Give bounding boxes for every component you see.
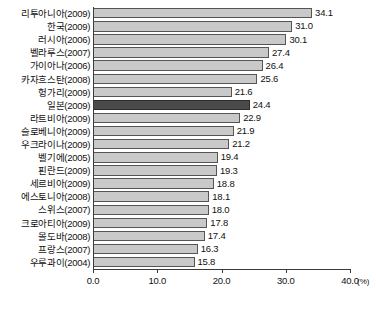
axis-tick-label: 10.0 <box>148 275 166 287</box>
bar <box>93 34 286 44</box>
category-label: 슬로베니아(2009) <box>0 126 90 137</box>
bar-value-label: 21.9 <box>237 125 255 137</box>
bar <box>93 257 195 267</box>
axis-tick-label: 30.0 <box>277 275 295 287</box>
category-label: 카자흐스탄(2008) <box>0 74 90 85</box>
bar <box>93 126 234 136</box>
bar-value-label: 22.9 <box>243 112 261 124</box>
bar-value-label: 34.1 <box>315 7 333 19</box>
bar-value-label: 26.4 <box>266 60 284 72</box>
bar-row: 벨라루스(2007)27.4 <box>0 46 376 59</box>
bar-row: 스위스(2007)18.0 <box>0 203 376 216</box>
category-label: 우크라이나(2009) <box>0 139 90 150</box>
bar-track: 18.0 <box>93 203 376 216</box>
bar-value-label: 15.8 <box>198 256 216 268</box>
plot-area: 리투아니아(2009)34.1한국(2009)31.0러시아(2006)30.1… <box>0 0 376 312</box>
bar-value-label: 21.2 <box>232 138 250 150</box>
bar-track: 27.4 <box>93 46 376 59</box>
category-label: 몰도바(2008) <box>0 231 90 242</box>
bar-track: 19.4 <box>93 151 376 164</box>
axis-tick-label: 20.0 <box>213 275 231 287</box>
bar-value-label: 17.8 <box>210 217 228 229</box>
category-label: 크로아티아(2009) <box>0 218 90 229</box>
category-label: 한국(2009) <box>0 21 90 32</box>
bar-track: 18.1 <box>93 190 376 203</box>
bar <box>93 60 263 70</box>
bar-row: 핀란드(2009)19.3 <box>0 164 376 177</box>
bar-track: 24.4 <box>93 99 376 112</box>
bar <box>93 165 217 175</box>
bar-value-label: 18.8 <box>217 178 235 190</box>
bar-track: 16.3 <box>93 243 376 256</box>
bar-track: 21.9 <box>93 125 376 138</box>
bar-value-label: 24.4 <box>253 99 271 111</box>
bar <box>93 21 292 31</box>
bar-value-label: 16.3 <box>201 243 219 255</box>
axis-tick <box>286 269 287 273</box>
category-label: 프랑스(2007) <box>0 244 90 255</box>
category-label: 헝가리(2009) <box>0 87 90 98</box>
axis-tick <box>157 269 158 273</box>
bar-value-label: 17.4 <box>208 230 226 242</box>
bar-track: 17.8 <box>93 217 376 230</box>
category-label: 에스토니아(2008) <box>0 191 90 202</box>
category-axis-line <box>93 7 94 269</box>
bar-row: 크로아티아(2009)17.8 <box>0 217 376 230</box>
bar <box>93 178 214 188</box>
bar-row: 슬로베니아(2009)21.9 <box>0 125 376 138</box>
bar <box>93 113 240 123</box>
bar-row: 카자흐스탄(2008)25.6 <box>0 72 376 85</box>
category-label: 벨기에(2005) <box>0 152 90 163</box>
axis-tick <box>350 269 351 273</box>
bar <box>93 218 207 228</box>
category-label: 세르비아(2009) <box>0 178 90 189</box>
bar-rows: 리투아니아(2009)34.1한국(2009)31.0러시아(2006)30.1… <box>0 7 376 269</box>
bar-row: 프랑스(2007)16.3 <box>0 243 376 256</box>
bar-row: 리투아니아(2009)34.1 <box>0 7 376 20</box>
bar-row: 벨기에(2005)19.4 <box>0 151 376 164</box>
bar-value-label: 18.0 <box>212 204 230 216</box>
category-label: 핀란드(2009) <box>0 165 90 176</box>
bar <box>93 47 269 57</box>
axis-tick <box>222 269 223 273</box>
bar <box>93 87 232 97</box>
bar-value-label: 18.1 <box>212 191 230 203</box>
category-label: 라트비아(2009) <box>0 113 90 124</box>
bar-value-label: 30.1 <box>289 34 307 46</box>
bar-track: 21.2 <box>93 138 376 151</box>
category-label: 스위스(2007) <box>0 204 90 215</box>
axis-tick-label: 0.0 <box>87 275 100 287</box>
category-label: 러시아(2006) <box>0 34 90 45</box>
axis-tick <box>93 269 94 273</box>
category-label: 벨라루스(2007) <box>0 47 90 58</box>
bar-row: 일본(2009)24.4 <box>0 99 376 112</box>
bar-track: 31.0 <box>93 20 376 33</box>
bar-row: 에스토니아(2008)18.1 <box>0 190 376 203</box>
bar-row: 헝가리(2009)21.6 <box>0 86 376 99</box>
bar-track: 21.6 <box>93 86 376 99</box>
bar-value-label: 19.4 <box>221 151 239 163</box>
bar-value-label: 21.6 <box>235 86 253 98</box>
bar <box>93 191 209 201</box>
bar-track: 18.8 <box>93 177 376 190</box>
bar <box>93 231 205 241</box>
bar <box>93 244 198 254</box>
bar <box>93 139 229 149</box>
bar <box>93 74 257 84</box>
bar-track: 34.1 <box>93 7 376 20</box>
bar-track: 30.1 <box>93 33 376 46</box>
bar-row: 한국(2009)31.0 <box>0 20 376 33</box>
bar-value-label: 31.0 <box>295 20 313 32</box>
bar-track: 19.3 <box>93 164 376 177</box>
bar-row: 라트비아(2009)22.9 <box>0 112 376 125</box>
bar-row: 몰도바(2008)17.4 <box>0 230 376 243</box>
bar-row: 가이아나(2006)26.4 <box>0 59 376 72</box>
category-label: 리투아니아(2009) <box>0 8 90 19</box>
bar-track: 15.8 <box>93 256 376 269</box>
bar-track: 25.6 <box>93 72 376 85</box>
category-label: 일본(2009) <box>0 100 90 111</box>
bar-track: 17.4 <box>93 230 376 243</box>
bar-row: 러시아(2006)30.1 <box>0 33 376 46</box>
bar-row: 우루과이(2004)15.8 <box>0 256 376 269</box>
bar-row: 우크라이나(2009)21.2 <box>0 138 376 151</box>
